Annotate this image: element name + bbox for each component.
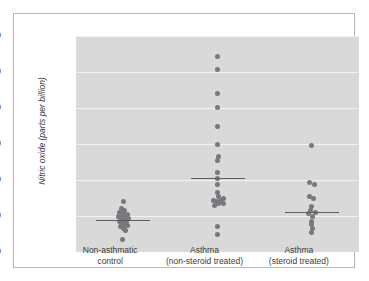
y-axis-tick-label: 60	[0, 31, 1, 40]
x-axis-category-label: Asthma(steroid treated)	[239, 245, 359, 267]
data-point	[215, 105, 220, 110]
y-axis-label: Nitric oxide (parts per billion)	[37, 31, 47, 231]
data-point	[221, 201, 226, 206]
median-line	[191, 178, 245, 180]
data-point	[215, 224, 220, 229]
data-point	[120, 237, 125, 242]
y-axis-tick-label: 50	[0, 67, 1, 76]
data-point	[215, 232, 220, 237]
y-axis-tick-label: 30	[0, 139, 1, 148]
plot-area	[76, 36, 359, 252]
data-point	[123, 228, 128, 233]
gridline	[76, 36, 359, 37]
data-point	[215, 142, 220, 147]
median-line	[285, 212, 339, 214]
data-point	[215, 170, 220, 175]
median-line	[96, 220, 150, 222]
data-point	[215, 158, 220, 163]
data-point	[212, 203, 217, 208]
data-point	[215, 67, 220, 72]
data-point	[215, 124, 220, 129]
data-point	[309, 143, 314, 148]
data-point	[215, 54, 220, 59]
y-axis-tick-label: 0	[0, 247, 1, 256]
y-axis-tick-label: 10	[0, 211, 1, 220]
y-axis-tick-label: 20	[0, 175, 1, 184]
data-point	[215, 91, 220, 96]
data-point	[312, 182, 317, 187]
data-point	[215, 182, 220, 187]
data-point	[311, 196, 316, 201]
figure-frame: Nitric oxide (parts per billion) 0102030…	[13, 13, 355, 268]
category-label-line2: (steroid treated)	[239, 256, 359, 267]
data-point	[121, 199, 126, 204]
figure-root: Nitric oxide (parts per billion) 0102030…	[0, 0, 369, 281]
data-point	[309, 230, 314, 235]
gridline	[76, 72, 359, 73]
category-label-line1: Asthma	[239, 245, 359, 256]
y-axis-tick-label: 40	[0, 103, 1, 112]
